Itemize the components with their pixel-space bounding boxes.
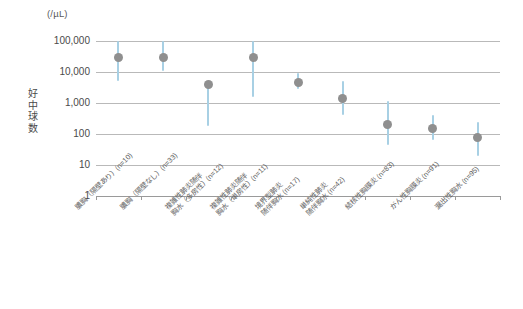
x-axis-tick-labels: 膿胸（隔壁あり）(n=10)膿胸（隔壁なし）(n=33)複雑性肺炎随伴胸水（多房…	[0, 200, 523, 309]
x-tick-mark-5	[320, 196, 321, 200]
x-tick-mark-1	[141, 196, 142, 200]
x-tick-mark-8	[455, 196, 456, 200]
x-tick-mark-2	[186, 196, 187, 200]
x-tick-mark-7	[410, 196, 411, 200]
x-tick-mark-9	[500, 196, 501, 200]
y-tick-label-1: 10,000	[32, 66, 90, 77]
error-bar-2	[207, 84, 209, 126]
gridline-1000	[96, 103, 500, 104]
x-axis-line	[96, 196, 500, 197]
data-point-marker-3	[249, 53, 258, 62]
data-point-marker-6	[383, 120, 392, 129]
y-tick-label-0: 100,000	[32, 35, 90, 46]
data-point-marker-1	[159, 53, 168, 62]
gridline-100	[96, 134, 500, 135]
data-point-marker-2	[204, 80, 213, 89]
y-tick-label-3: 100	[32, 128, 90, 139]
error-bar-3	[252, 41, 254, 97]
data-point-marker-0	[114, 53, 123, 62]
y-tick-label-2: 1,000	[32, 97, 90, 108]
y-tick-label-4: 10	[32, 159, 90, 170]
data-point-marker-5	[338, 94, 347, 103]
gridline-100000	[96, 41, 500, 42]
data-point-marker-7	[428, 124, 437, 133]
data-point-marker-8	[473, 133, 482, 142]
x-tick-mark-4	[276, 196, 277, 200]
data-point-marker-4	[294, 78, 303, 87]
x-tick-mark-3	[231, 196, 232, 200]
x-tick-mark-0	[96, 196, 97, 200]
x-tick-mark-6	[365, 196, 366, 200]
chart-figure: (/µL) 好中球数 100,00010,0001,000100101 膿胸（隔…	[0, 0, 523, 309]
